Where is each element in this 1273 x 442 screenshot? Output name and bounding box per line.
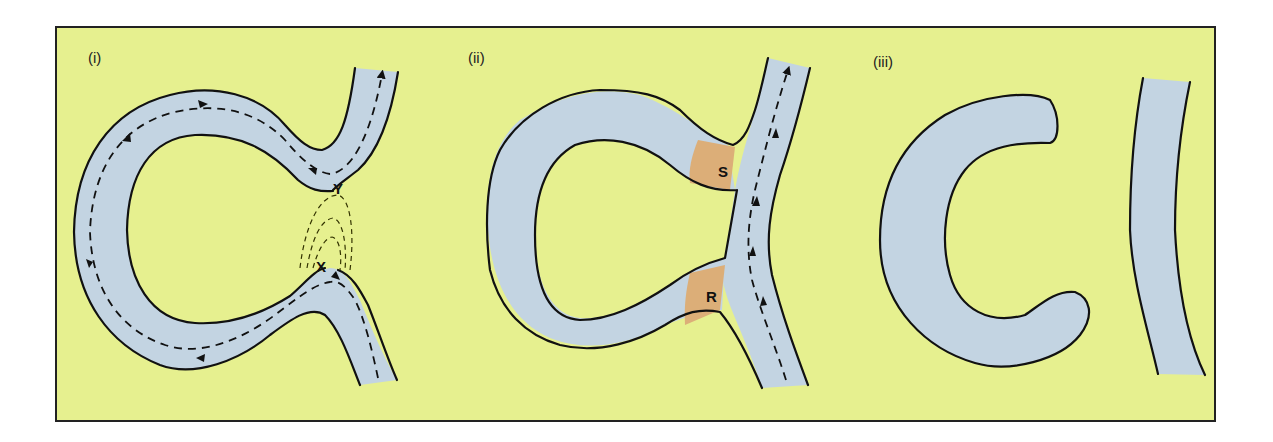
- panel-label-i: (i): [88, 49, 101, 66]
- point-label-x: X: [316, 258, 326, 275]
- oxbow-lake-diagram: (i) Y X (ii): [0, 0, 1273, 442]
- diagram-frame: [56, 27, 1215, 421]
- point-label-y: Y: [333, 180, 343, 197]
- point-label-s: S: [718, 163, 728, 180]
- panel-label-ii: (ii): [468, 49, 485, 66]
- point-label-r: R: [706, 288, 717, 305]
- panel-label-iii: (iii): [873, 53, 893, 70]
